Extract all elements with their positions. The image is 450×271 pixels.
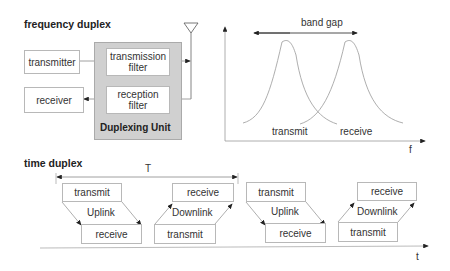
antenna-icon — [184, 23, 198, 33]
frame3-bottom: receive — [265, 223, 326, 243]
receive-curve — [300, 41, 403, 124]
frequency-axis-label: f — [409, 144, 412, 155]
frame4-bottom: transmit — [338, 222, 398, 242]
frame1-top: transmit — [62, 183, 122, 202]
frame2-middle: Downlink — [172, 207, 213, 218]
transmit-curve — [243, 41, 337, 124]
time-axis-label: t — [416, 251, 419, 262]
frequency-duplex-title: frequency duplex — [24, 18, 111, 30]
band-gap-label: band gap — [301, 17, 343, 28]
duplexing-unit-label: Duplexing Unit — [100, 122, 171, 133]
transmit-spectrum-label: transmit — [272, 126, 308, 137]
transmission-filter-block: transmission filter — [106, 48, 170, 76]
frame1-bottom: receive — [81, 224, 142, 244]
frame2-bottom: transmit — [154, 224, 216, 244]
reception-filter-block: reception filter — [106, 86, 170, 114]
receiver-block: receiver — [24, 87, 84, 113]
frame4-top: receive — [357, 182, 417, 201]
receive-spectrum-label: receive — [340, 126, 372, 137]
frame3-top: transmit — [246, 182, 306, 202]
frame2-top: receive — [172, 183, 234, 202]
frame4-middle: Downlink — [357, 206, 398, 217]
frame1-middle: Uplink — [87, 207, 115, 218]
time-duplex-title: time duplex — [24, 157, 82, 169]
period-label: T — [145, 163, 151, 174]
frame3-middle: Uplink — [271, 206, 299, 217]
transmitter-block: transmitter — [24, 50, 80, 74]
